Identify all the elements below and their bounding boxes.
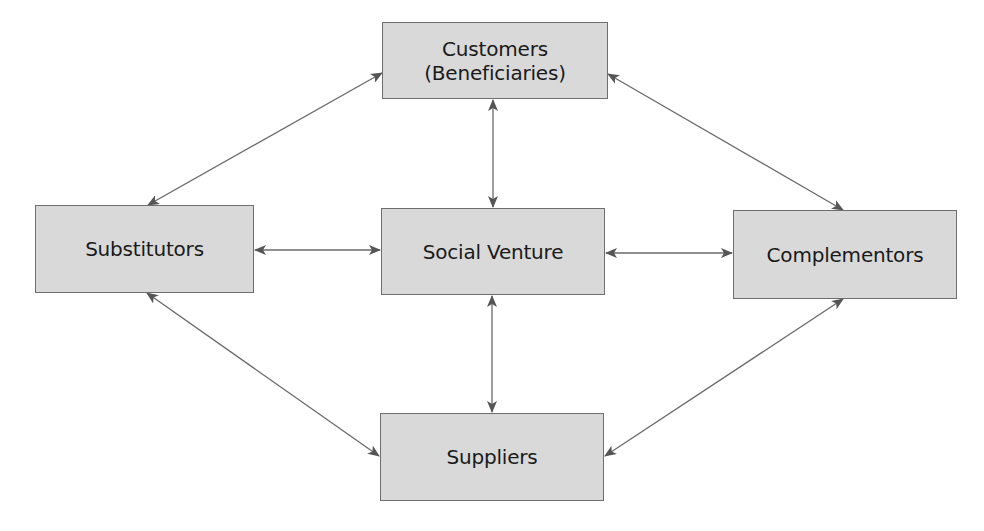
node-suppliers: Suppliers [380,413,604,501]
arrow-customers-complementors [608,74,843,210]
node-social-venture: Social Venture [381,208,605,295]
node-substitutors: Substitutors [35,205,254,293]
arrow-customers-substitutors [148,73,382,205]
arrow-substitutors-suppliers [147,293,379,456]
diagram-canvas: Customers (Beneficiaries) Substitutors S… [0,0,984,531]
node-complementors: Complementors [733,210,957,299]
node-customers-label: Customers [442,37,548,61]
node-substitutors-label: Substitutors [85,237,204,261]
node-customers-sublabel: (Beneficiaries) [424,61,566,85]
node-social-venture-label: Social Venture [423,240,564,264]
node-suppliers-label: Suppliers [446,445,537,469]
arrow-complementors-suppliers [605,299,843,456]
node-complementors-label: Complementors [767,243,924,267]
node-customers: Customers (Beneficiaries) [382,22,608,99]
